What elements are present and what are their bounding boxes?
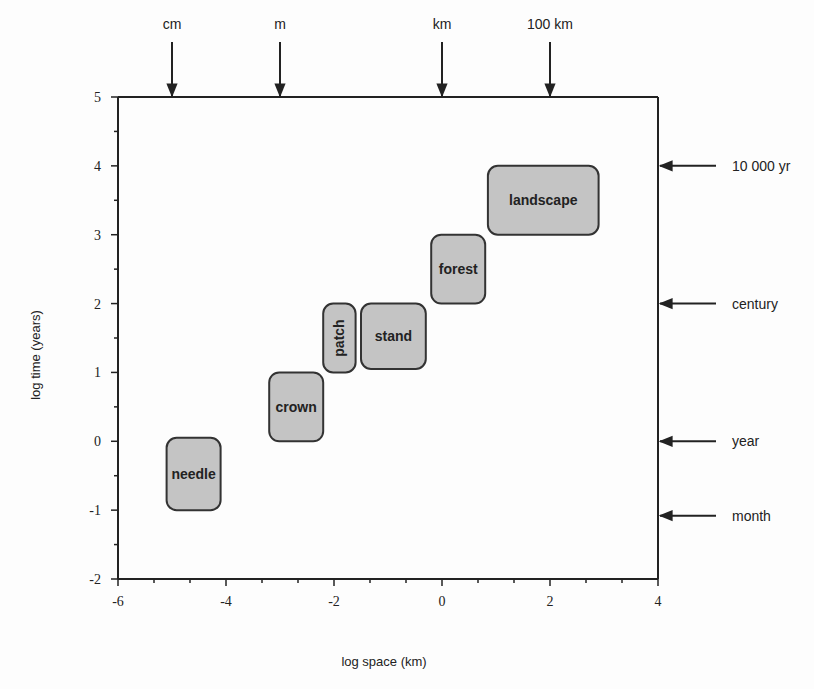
top-marker-km: km bbox=[433, 16, 452, 96]
right-marker-year: year bbox=[660, 433, 760, 449]
top-marker-cm: cm bbox=[163, 16, 182, 96]
scale-box-label: patch bbox=[331, 319, 347, 356]
x-tick-label: -2 bbox=[328, 594, 340, 609]
y-tick-label: -2 bbox=[89, 572, 101, 587]
top-marker-100-km: 100 km bbox=[527, 16, 573, 96]
y-tick-label: 2 bbox=[94, 297, 101, 312]
scale-box-stand: stand bbox=[361, 304, 426, 369]
right-marker-month: month bbox=[660, 508, 771, 524]
scale-box-crown: crown bbox=[269, 372, 323, 441]
scale-boxes: needlecrownpatchstandforestlandscape bbox=[167, 166, 599, 510]
x-tick-label: 4 bbox=[655, 594, 662, 609]
x-axis-title: log space (km) bbox=[341, 654, 426, 669]
scale-box-label: needle bbox=[171, 466, 216, 482]
right-time-markers: 10 000 yrcenturyyearmonth bbox=[660, 158, 791, 524]
scale-box-label: crown bbox=[276, 399, 317, 415]
top-marker-label: m bbox=[274, 16, 286, 32]
x-tick-label: -4 bbox=[220, 594, 232, 609]
y-axis: -2-1012345 bbox=[89, 90, 118, 587]
right-marker-label: year bbox=[732, 433, 760, 449]
top-marker-label: km bbox=[433, 16, 452, 32]
right-marker-century: century bbox=[660, 296, 778, 312]
top-marker-m: m bbox=[274, 16, 286, 96]
scale-box-patch: patch bbox=[323, 304, 355, 373]
scale-diagram: -6-4-2024 -2-1012345 needlecrownpatchsta… bbox=[0, 0, 814, 689]
x-tick-label: 0 bbox=[439, 594, 446, 609]
y-tick-label: 5 bbox=[94, 90, 101, 105]
x-tick-label: 2 bbox=[547, 594, 554, 609]
y-tick-label: 4 bbox=[94, 159, 101, 174]
top-marker-label: 100 km bbox=[527, 16, 573, 32]
top-marker-label: cm bbox=[163, 16, 182, 32]
x-tick-label: -6 bbox=[112, 594, 124, 609]
right-marker-label: century bbox=[732, 296, 778, 312]
y-tick-label: -1 bbox=[89, 503, 101, 518]
right-marker-label: month bbox=[732, 508, 771, 524]
y-axis-title: log time (years) bbox=[28, 310, 43, 400]
top-space-markers: cmmkm100 km bbox=[163, 16, 573, 96]
scale-box-forest: forest bbox=[431, 235, 485, 304]
scale-box-landscape: landscape bbox=[488, 166, 599, 235]
y-tick-label: 1 bbox=[94, 365, 101, 380]
scale-box-label: stand bbox=[375, 328, 412, 344]
right-marker-10-000-yr: 10 000 yr bbox=[660, 158, 791, 174]
y-tick-label: 3 bbox=[94, 228, 101, 243]
scale-box-label: landscape bbox=[509, 192, 578, 208]
y-tick-label: 0 bbox=[94, 434, 101, 449]
right-marker-label: 10 000 yr bbox=[732, 158, 791, 174]
scale-box-label: forest bbox=[439, 261, 478, 277]
x-axis: -6-4-2024 bbox=[112, 579, 661, 609]
scale-box-needle: needle bbox=[167, 438, 221, 510]
